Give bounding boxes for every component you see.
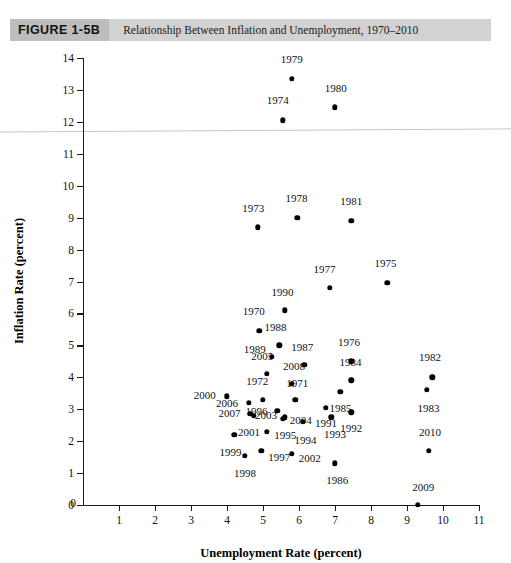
x-tick-label: 10: [437, 514, 449, 526]
y-tick: [77, 409, 83, 410]
y-tick-label: 5: [68, 339, 74, 351]
x-tick: [335, 505, 336, 511]
x-axis-title: Unemployment Rate (percent): [200, 546, 362, 561]
data-point: [242, 453, 247, 458]
data-point: [280, 118, 285, 123]
data-point-label: 1980: [325, 82, 347, 94]
figure-page: FIGURE 1-5B Relationship Between Inflati…: [0, 0, 511, 563]
data-point-label: 2004: [290, 414, 312, 426]
y-tick: [77, 441, 83, 442]
data-point-label: 1984: [339, 356, 361, 368]
data-point: [264, 429, 269, 434]
figure-caption: Relationship Between Inflation and Unemp…: [109, 24, 418, 36]
data-point-label: 1981: [340, 195, 362, 207]
y-tick: [77, 250, 83, 251]
x-tick: [443, 505, 444, 511]
y-tick: [77, 154, 83, 155]
x-tick: [263, 505, 264, 511]
y-tick: [77, 473, 83, 474]
data-point-label: 1973: [242, 202, 264, 214]
data-point-label: 2009: [412, 481, 434, 493]
x-tick-label: 3: [188, 514, 194, 526]
data-point: [327, 285, 332, 290]
data-point: [415, 502, 420, 507]
x-tick: [407, 505, 408, 511]
x-tick: [155, 505, 156, 511]
y-tick: [77, 377, 83, 378]
data-point-label: 2007: [219, 407, 241, 419]
y-tick: [77, 282, 83, 283]
x-tick-label: 2: [152, 514, 158, 526]
x-tick-label: 1: [116, 514, 122, 526]
y-tick-label: 4: [68, 371, 74, 383]
data-point-label: 2008: [283, 360, 305, 372]
y-tick-label: 6: [68, 307, 74, 319]
data-point: [231, 432, 236, 437]
x-tick-label: 11: [473, 514, 484, 526]
x-tick-label: 0: [70, 497, 76, 509]
data-point-label: 1998: [234, 467, 256, 479]
y-tick-label: 12: [63, 116, 75, 128]
y-tick-label: 9: [68, 212, 74, 224]
x-tick-label: 5: [260, 514, 266, 526]
data-point-label: 1988: [265, 321, 287, 333]
data-point: [348, 410, 353, 415]
y-tick: [77, 313, 83, 314]
y-axis-title: Inflation Rate (percent): [12, 218, 27, 344]
data-point: [276, 343, 281, 348]
y-tick-label: 7: [68, 276, 74, 288]
scatter-plot-area: 01234567891011121314 01234567891011 1970…: [83, 58, 479, 505]
data-point-label: 1979: [281, 53, 303, 65]
y-tick: [77, 186, 83, 187]
y-tick-label: 8: [68, 244, 74, 256]
y-tick: [77, 122, 83, 123]
y-tick: [77, 90, 83, 91]
data-point: [257, 328, 262, 333]
figure-header-bar: FIGURE 1-5B Relationship Between Inflati…: [10, 19, 491, 41]
data-point-label: 1999: [220, 446, 242, 458]
data-point: [293, 397, 298, 402]
x-tick: [299, 505, 300, 511]
data-point-label: 2000: [194, 389, 216, 401]
x-tick-label: 6: [296, 514, 302, 526]
data-point-label: 2001: [238, 426, 260, 438]
y-tick-label: 1: [68, 467, 74, 479]
data-point-label: 1993: [324, 428, 346, 440]
y-tick: [77, 58, 83, 59]
data-point: [289, 76, 294, 81]
data-point: [332, 461, 337, 466]
data-point: [348, 378, 353, 383]
data-point: [338, 389, 343, 394]
x-tick: [191, 505, 192, 511]
data-point: [424, 387, 429, 392]
data-point-label: 1982: [419, 351, 441, 363]
x-tick-label: 9: [404, 514, 410, 526]
x-tick: [479, 505, 480, 511]
data-point-label: 1977: [314, 263, 336, 275]
x-tick-label: 4: [224, 514, 230, 526]
data-point: [280, 416, 285, 421]
y-tick-label: 3: [68, 403, 74, 415]
y-tick-label: 14: [63, 52, 75, 64]
y-tick: [77, 505, 83, 506]
data-point-label: 1975: [374, 257, 396, 269]
data-point: [294, 215, 299, 220]
y-tick-label: 13: [63, 84, 75, 96]
data-point-label: 1994: [294, 434, 316, 446]
data-point-label: 2002: [299, 452, 321, 464]
data-point: [348, 218, 353, 223]
x-tick-label: 7: [332, 514, 338, 526]
figure-number-tag: FIGURE 1-5B: [10, 19, 109, 41]
data-point-label: 1972: [246, 375, 268, 387]
x-tick: [371, 505, 372, 511]
x-tick-label: 8: [368, 514, 374, 526]
y-tick: [77, 345, 83, 346]
data-point-label: 2010: [419, 426, 441, 438]
data-point: [264, 371, 269, 376]
data-point: [282, 308, 287, 313]
data-point: [289, 451, 294, 456]
data-point-label: 1983: [418, 402, 440, 414]
data-point-label: 1987: [291, 341, 313, 353]
data-point-label: 1974: [267, 94, 289, 106]
data-point-label: 1995: [274, 429, 296, 441]
